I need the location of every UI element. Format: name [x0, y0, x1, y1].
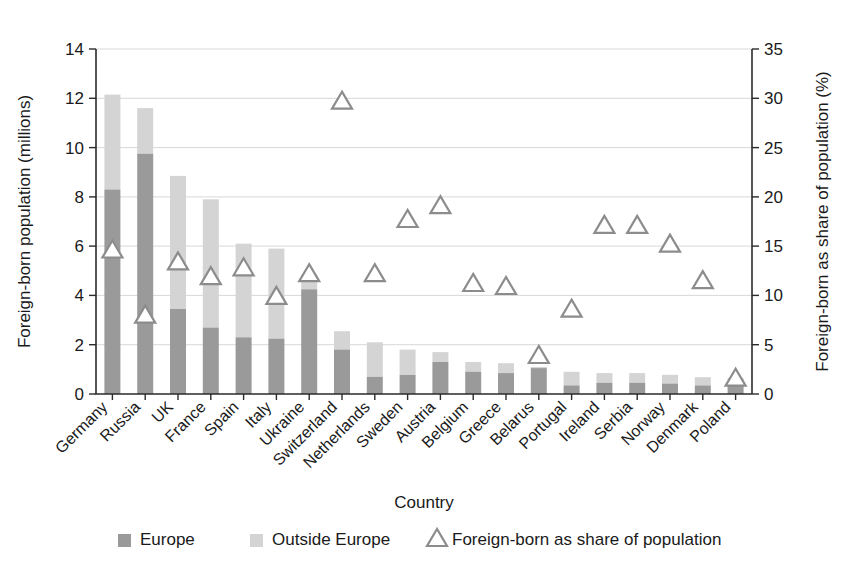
category-labels: GermanyRussiaUKFranceSpainItalyUkraineSw…: [52, 394, 736, 471]
legend-triangle-icon: [427, 529, 447, 546]
bar-segment-europe: [104, 190, 120, 395]
right-axis-tick-label: 10: [764, 286, 783, 305]
share-marker-triangle: [726, 369, 746, 386]
y-axis-title: Foreign-born population (millions): [15, 95, 34, 348]
bar-stack: [564, 372, 580, 394]
share-marker-triangle: [299, 264, 319, 281]
legend-label: Foreign-born as share of population: [452, 530, 721, 549]
bar-stack: [629, 373, 645, 394]
bar-segment-outside-europe: [564, 372, 580, 386]
bar-stack: [498, 363, 514, 394]
legend-label: Europe: [140, 530, 195, 549]
left-axis-tick-label: 2: [75, 336, 84, 355]
bar-stack: [465, 362, 481, 394]
bar-segment-europe: [432, 362, 448, 394]
left-axis-ticks: 02468101214: [65, 40, 96, 404]
share-marker-triangle: [562, 300, 582, 317]
share-marker-triangle: [430, 196, 450, 213]
bar-stack: [334, 331, 350, 394]
axes: [96, 49, 752, 394]
bar-segment-europe: [137, 154, 153, 394]
bar-segment-outside-europe: [531, 367, 547, 368]
category-tick-label: Spain: [201, 398, 242, 439]
share-marker-triangle: [365, 264, 385, 281]
share-marker-triangle: [693, 271, 713, 288]
bar-segment-outside-europe: [400, 350, 416, 375]
bar-segment-outside-europe: [104, 95, 120, 190]
right-axis-tick-label: 30: [764, 89, 783, 108]
y2-axis-title: Foreign-born as share of population (%): [813, 71, 832, 372]
left-axis-tick-label: 8: [75, 188, 84, 207]
left-and-bottom-axis: [96, 49, 752, 394]
bar-segment-europe: [564, 385, 580, 394]
right-axis-tick-label: 5: [764, 336, 773, 355]
share-marker-triangle: [463, 274, 483, 291]
bar-segment-europe: [367, 377, 383, 394]
bar-segment-europe: [498, 373, 514, 394]
bar-segment-outside-europe: [137, 108, 153, 154]
bar-stack: [170, 176, 186, 394]
bar-segment-outside-europe: [596, 373, 612, 383]
share-marker-triangle: [496, 277, 516, 294]
legend-item[interactable]: Europe: [118, 530, 195, 549]
x-axis-title: Country: [394, 493, 454, 512]
bar-segment-europe: [531, 368, 547, 394]
share-marker-triangle: [332, 92, 352, 109]
bar-stack: [301, 275, 317, 395]
bar-segment-europe: [203, 328, 219, 395]
legend-swatch: [118, 534, 131, 547]
bar-stack: [695, 377, 711, 394]
legend-swatch: [250, 534, 263, 547]
right-axis-tick-label: 15: [764, 237, 783, 256]
chart-container: 0246810121405101520253035GermanyRussiaUK…: [0, 0, 858, 585]
bar-segment-europe: [301, 289, 317, 394]
legend-label: Outside Europe: [272, 530, 390, 549]
bar-segment-outside-europe: [629, 373, 645, 383]
marker-group: [102, 92, 745, 386]
legend-item[interactable]: Outside Europe: [250, 530, 390, 549]
gridlines: [96, 49, 752, 345]
bar-stack: [203, 199, 219, 394]
share-marker-triangle: [529, 346, 549, 363]
bar-segment-outside-europe: [203, 199, 219, 327]
bar-segment-outside-europe: [498, 363, 514, 373]
bar-stack: [596, 373, 612, 394]
right-axis-tick-label: 35: [764, 40, 783, 59]
bar-segment-outside-europe: [432, 352, 448, 362]
bar-stack: [662, 375, 678, 394]
bar-segment-outside-europe: [465, 362, 481, 372]
right-axis-tick-label: 0: [764, 385, 773, 404]
left-axis-tick-label: 6: [75, 237, 84, 256]
bar-stack: [137, 108, 153, 394]
share-marker-triangle: [594, 216, 614, 233]
right-axis-tick-label: 20: [764, 188, 783, 207]
share-marker-triangle: [398, 210, 418, 227]
bars-group: [104, 95, 743, 394]
bar-stack: [367, 342, 383, 394]
bar-segment-outside-europe: [662, 375, 678, 384]
left-axis-tick-label: 4: [75, 286, 84, 305]
bar-stack: [268, 249, 284, 394]
foreign-born-population-chart: 0246810121405101520253035GermanyRussiaUK…: [0, 0, 858, 585]
share-marker-triangle: [627, 216, 647, 233]
legend-item[interactable]: Foreign-born as share of population: [427, 529, 721, 549]
bar-segment-outside-europe: [334, 331, 350, 350]
bar-segment-europe: [236, 337, 252, 394]
bar-segment-europe: [695, 385, 711, 394]
bar-segment-europe: [662, 384, 678, 394]
left-axis-tick-label: 12: [65, 89, 84, 108]
right-axis-ticks: 05101520253035: [752, 40, 783, 404]
bar-segment-europe: [465, 372, 481, 394]
bar-segment-europe: [170, 309, 186, 394]
right-axis-tick-label: 25: [764, 139, 783, 158]
legend: EuropeOutside EuropeForeign-born as shar…: [118, 529, 721, 549]
bar-segment-europe: [400, 375, 416, 394]
bar-stack: [432, 352, 448, 394]
bar-segment-europe: [268, 339, 284, 394]
bar-segment-outside-europe: [367, 342, 383, 377]
share-marker-triangle: [660, 235, 680, 252]
bar-stack: [531, 367, 547, 394]
bar-segment-europe: [596, 383, 612, 394]
left-axis-tick-label: 10: [65, 139, 84, 158]
bar-stack: [400, 350, 416, 394]
